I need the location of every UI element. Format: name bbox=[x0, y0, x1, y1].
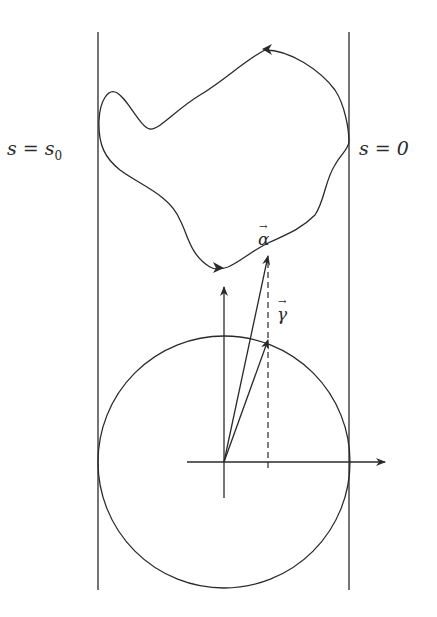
curve-arrow-top-icon bbox=[262, 44, 272, 55]
curve-arrow-bottom-icon bbox=[213, 262, 224, 273]
gamma-vector-label: γ bbox=[277, 304, 287, 324]
alpha-symbol: α bbox=[258, 229, 269, 249]
left-boundary-label: s = s0 bbox=[7, 137, 62, 163]
gamma-symbol: γ bbox=[277, 304, 287, 324]
diagram-canvas bbox=[0, 0, 437, 617]
alpha-vector-label: α bbox=[258, 229, 269, 249]
right-boundary-label: s = 0 bbox=[359, 137, 409, 159]
closed-curve bbox=[99, 50, 349, 269]
left-boundary-text: s = s bbox=[7, 137, 55, 159]
left-boundary-subscript: 0 bbox=[55, 149, 63, 163]
